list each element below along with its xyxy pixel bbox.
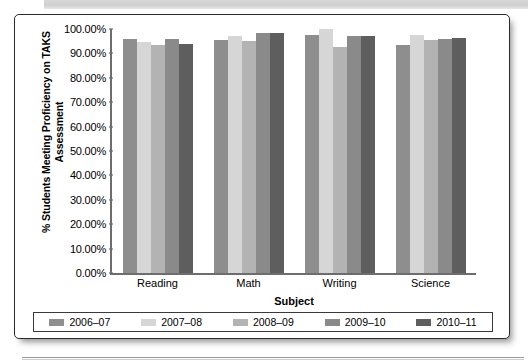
bar: [165, 39, 179, 273]
bar: [214, 40, 228, 273]
bar-group: [396, 29, 466, 273]
bar: [424, 40, 438, 273]
bar: [361, 36, 375, 273]
y-axis-tick-label: 60.00%: [70, 121, 106, 133]
legend-swatch-icon: [325, 319, 340, 326]
legend-label: 2008–09: [253, 316, 294, 328]
x-axis-tick-label: Reading: [115, 277, 201, 289]
bar: [151, 45, 165, 273]
bar: [396, 45, 410, 273]
y-axis-tick-label: 40.00%: [70, 169, 106, 181]
bar: [179, 44, 193, 273]
legend-item: 2009–10: [325, 316, 386, 328]
legend-item: 2008–09: [233, 316, 294, 328]
chart-legend: 2006–072007–082008–092009–102010–11: [33, 312, 493, 332]
legend-swatch-icon: [233, 319, 248, 326]
bar-group: [305, 29, 375, 273]
bar: [319, 29, 333, 273]
y-axis-tick-label: 70.00%: [70, 96, 106, 108]
legend-label: 2007–08: [161, 316, 202, 328]
x-axis-title: Subject: [112, 295, 476, 307]
bar: [137, 42, 151, 273]
scan-artifact-bottom-rule: [22, 357, 524, 358]
x-axis-tick-label: Math: [206, 277, 292, 289]
bar: [410, 35, 424, 273]
bar: [228, 36, 242, 273]
y-axis-tick-labels: 100.00%90.00%80.00%70.00%60.00%50.00%40.…: [53, 29, 110, 273]
bar: [123, 39, 137, 273]
chart-figure-card: % Students Meeting Proficiency on TAKS A…: [14, 14, 510, 339]
legend-label: 2010–11: [436, 316, 476, 328]
x-axis-tick-label: Science: [388, 277, 474, 289]
legend-label: 2009–10: [345, 316, 386, 328]
legend-swatch-icon: [416, 319, 431, 326]
bar-group: [214, 29, 284, 273]
y-axis-tick-label: 80.00%: [70, 72, 106, 84]
bar-group: [123, 29, 193, 273]
bar: [333, 47, 347, 273]
y-axis-tick-label: 10.00%: [70, 243, 106, 255]
bar: [347, 36, 361, 273]
x-axis-tick-labels: ReadingMathWritingScience: [112, 277, 476, 289]
legend-item: 2006–07: [49, 316, 110, 328]
bar: [242, 41, 256, 273]
x-axis-tick-label: Writing: [297, 277, 383, 289]
y-axis-tick-label: 0.00%: [76, 267, 106, 279]
y-axis-tick-label: 100.00%: [64, 23, 106, 35]
legend-swatch-icon: [49, 319, 64, 326]
bar: [256, 33, 270, 273]
bar: [305, 35, 319, 273]
bar: [270, 33, 284, 273]
legend-label: 2006–07: [69, 316, 110, 328]
bar: [438, 39, 452, 273]
bar: [452, 38, 466, 273]
y-axis-tick-label: 90.00%: [70, 47, 106, 59]
y-axis-tick-label: 20.00%: [70, 218, 106, 230]
plot-region: % Students Meeting Proficiency on TAKS A…: [15, 15, 511, 340]
scan-artifact-bottom-rule-2: [22, 359, 524, 360]
legend-swatch-icon: [141, 319, 156, 326]
scan-artifact-top-band: [44, 0, 528, 9]
x-axis-line: [110, 273, 476, 275]
legend-item: 2007–08: [141, 316, 202, 328]
legend-item: 2010–11: [416, 316, 476, 328]
y-axis-tick-label: 50.00%: [70, 145, 106, 157]
y-axis-tick-label: 30.00%: [70, 194, 106, 206]
bars-plot-area: [112, 29, 476, 273]
